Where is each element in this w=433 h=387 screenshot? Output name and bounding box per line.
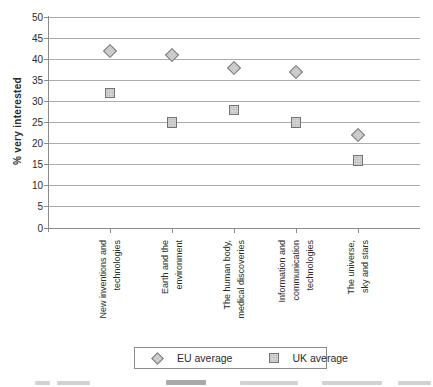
cutoff-caption-fragment [166,380,206,385]
category-label-2: The human body, medical discoveries [220,240,248,332]
category-label-4: The universe, sky and stars [344,240,372,332]
legend-item-eu-average: EU average [151,352,232,364]
x-axis-tick-1 [172,228,173,233]
gridline-10 [48,185,420,186]
uk-average-point-3 [291,117,302,128]
y-tick-label-0: 0 [11,223,43,234]
gridline-30 [48,101,420,102]
gridline-40 [48,59,420,60]
x-axis-tick-0 [110,228,111,233]
cutoff-caption-fragment [398,381,431,385]
eu-average-point-2 [227,61,241,75]
gridline-50 [48,17,420,18]
category-label-0: New inventions and technologies [96,240,124,332]
y-tick-label-10: 10 [11,180,43,191]
gridline-45 [48,38,420,39]
y-tick-label-45: 45 [11,33,43,44]
chart-figure: 05101520253035404550New inventions and t… [0,0,433,387]
uk-average-point-1 [167,117,178,128]
gridline-20 [48,143,420,144]
cutoff-caption-fragment [35,381,50,385]
cutoff-caption-fragment [240,381,298,385]
y-tick-label-50: 50 [11,12,43,23]
legend: EU average UK average [134,347,327,369]
eu-average-point-4 [351,128,365,142]
y-axis-line [48,16,49,232]
uk-average-point-2 [229,105,240,116]
uk-average-square-icon [269,353,279,363]
category-label-1: Earth and the environment [158,240,186,332]
cutoff-caption-fragment [322,381,382,385]
legend-label-uk-average: UK average [292,352,347,364]
eu-average-point-0 [103,44,117,58]
cutoff-caption-fragment [57,381,90,385]
uk-average-point-0 [105,88,116,99]
gridline-5 [48,206,420,207]
legend-label-eu-average: EU average [177,352,232,364]
legend-item-uk-average: UK average [269,352,347,364]
gridline-25 [48,122,420,123]
x-axis-tick-2 [234,228,235,233]
gridline-15 [48,164,420,165]
x-axis-tick-4 [358,228,359,233]
eu-average-point-3 [289,65,303,79]
eu-average-point-1 [165,48,179,62]
eu-average-diamond-icon [151,352,164,365]
y-axis-title: % very interested [12,77,23,165]
gridline-35 [48,80,420,81]
y-tick-label-5: 5 [11,201,43,212]
x-axis-tick-3 [296,228,297,233]
category-label-3: Information and communication technologi… [275,240,317,332]
y-tick-label-40: 40 [11,54,43,65]
uk-average-point-4 [353,155,364,166]
